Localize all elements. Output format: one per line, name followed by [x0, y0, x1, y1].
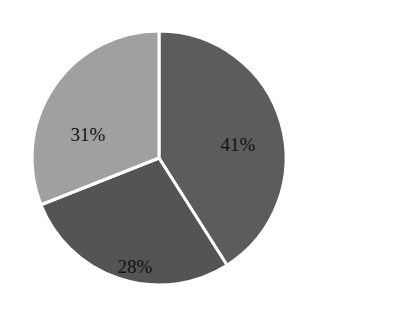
pie-label: 28% — [118, 256, 153, 277]
pie-chart: 41%28%31% — [0, 0, 402, 312]
pie-label: 31% — [71, 124, 106, 145]
pie-label: 41% — [221, 134, 256, 155]
pie-slices — [32, 31, 286, 285]
